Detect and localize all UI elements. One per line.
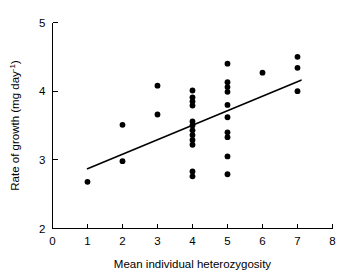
data-point [225, 154, 231, 160]
x-tick-label-8: 8 [329, 235, 335, 247]
chart-canvas: 2345012345678Mean individual heterozygos… [0, 0, 357, 277]
data-point [260, 70, 266, 76]
data-point [120, 122, 126, 128]
x-tick-label-2: 2 [119, 235, 125, 247]
data-point [295, 88, 301, 94]
data-point [190, 142, 196, 148]
x-tick-label-4: 4 [189, 235, 196, 247]
data-point [85, 179, 91, 185]
data-point [155, 112, 161, 118]
scatter-plot-figure: 2345012345678Mean individual heterozygos… [0, 0, 357, 277]
x-tick-label-6: 6 [259, 235, 265, 247]
data-point [190, 88, 196, 94]
data-point [225, 61, 231, 67]
data-point [225, 102, 231, 108]
x-tick-label-5: 5 [224, 235, 230, 247]
data-point [295, 54, 301, 60]
data-point [225, 171, 231, 177]
x-tick-label-3: 3 [154, 235, 160, 247]
y-tick-label-2: 2 [39, 223, 45, 235]
data-point [295, 65, 301, 71]
y-tick-label-5: 5 [39, 17, 45, 29]
data-point [225, 134, 231, 140]
data-point [190, 173, 196, 179]
data-point [225, 114, 231, 120]
y-tick-label-4: 4 [39, 85, 46, 97]
data-point [155, 83, 161, 89]
x-axis-title: Mean individual heterozygosity [114, 258, 272, 270]
x-tick-label-0: 0 [49, 235, 55, 247]
data-point-group [85, 54, 301, 185]
y-axis-title: Rate of growth (mg day-1) [8, 60, 21, 191]
x-tick-label-7: 7 [294, 235, 300, 247]
y-tick-label-3: 3 [39, 154, 45, 166]
data-point [225, 89, 231, 95]
data-point [190, 103, 196, 109]
x-tick-label-1: 1 [84, 235, 90, 247]
data-point [120, 158, 126, 164]
